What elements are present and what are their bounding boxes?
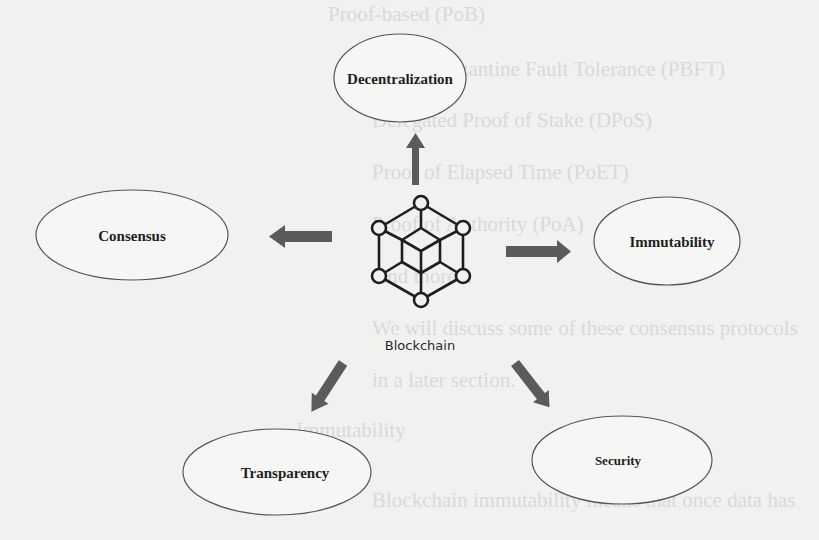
hexagon-cube-network-icon — [372, 196, 470, 307]
node-transparency: Transparency — [183, 429, 371, 515]
node-consensus: Consensus — [36, 190, 228, 280]
node-label-transparency: Transparency — [241, 465, 330, 481]
blockchain-properties-diagram: Decentralization Consensus Immutability … — [0, 0, 819, 540]
center-label-blockchain: Blockchain — [385, 338, 455, 353]
node-label-security: Security — [595, 453, 642, 468]
arrow-down-left-icon — [303, 358, 351, 418]
node-security: Security — [532, 416, 712, 504]
node-decentralization: Decentralization — [334, 34, 466, 122]
node-immutability: Immutability — [594, 197, 740, 285]
node-label-decentralization: Decentralization — [347, 71, 453, 87]
arrow-up-icon — [406, 133, 425, 185]
arrow-left-icon — [269, 225, 332, 248]
node-label-consensus: Consensus — [98, 228, 166, 244]
node-label-immutability: Immutability — [629, 234, 715, 250]
arrow-right-icon — [506, 240, 571, 263]
arrow-down-right-icon — [507, 357, 557, 413]
